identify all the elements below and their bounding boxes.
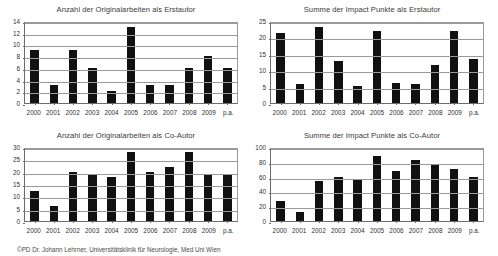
- x-tick-label: 2004: [348, 227, 367, 235]
- gridline: [25, 70, 237, 71]
- y-tick-label: 20: [259, 35, 266, 41]
- x-tick-label: 2009: [199, 109, 218, 117]
- y-tick-label: 10: [13, 42, 20, 48]
- y-tick-mark: [23, 223, 25, 224]
- x-tick-mark: [131, 221, 132, 223]
- x-tick-label: 2003: [328, 109, 347, 117]
- y-axis-labels: 020406080100: [252, 148, 268, 242]
- chart-title: Anzahl der Originalarbeiten als Co-Autor: [6, 130, 246, 142]
- bar: [334, 177, 342, 221]
- plot-area: 0510152025 20002001200220032004200520062…: [252, 22, 492, 122]
- x-tick-label: 2000: [24, 109, 43, 117]
- y-tick-mark: [23, 105, 25, 106]
- x-tick-label: 2005: [367, 227, 386, 235]
- y-tick-label: 100: [255, 145, 266, 151]
- x-tick-mark: [73, 221, 74, 223]
- y-axis-labels: 051015202530: [6, 148, 22, 242]
- x-tick-mark: [473, 103, 474, 105]
- bar: [50, 206, 58, 221]
- x-tick-mark: [92, 221, 93, 223]
- chart-title: Summe der Impact Punkte als Co-Autor: [252, 130, 492, 142]
- y-tick-mark: [269, 105, 271, 106]
- bar-cell: [348, 149, 367, 221]
- bar-cell: [329, 149, 348, 221]
- x-tick-mark: [377, 103, 378, 105]
- y-tick-label: 5: [262, 85, 266, 91]
- y-tick-mark: [23, 174, 25, 175]
- x-tick-mark: [415, 221, 416, 223]
- y-tick-label: 20: [13, 170, 20, 176]
- y-tick-mark: [23, 70, 25, 71]
- x-tick-mark: [227, 103, 228, 105]
- bar: [69, 172, 77, 221]
- x-tick-mark: [396, 103, 397, 105]
- x-axis-labels: 2000200120022003200420052006200720082009…: [24, 109, 238, 117]
- x-tick-label: 2003: [328, 227, 347, 235]
- y-tick-label: 0: [262, 101, 266, 107]
- x-tick-mark: [454, 103, 455, 105]
- plot-area: 02468101214 2000200120022003200420052006…: [6, 22, 246, 122]
- x-tick-label: 2002: [63, 227, 82, 235]
- x-tick-mark: [435, 221, 436, 223]
- bar: [431, 65, 439, 103]
- gridline: [271, 164, 483, 165]
- y-axis-labels: 0510152025: [252, 22, 268, 122]
- gridline: [25, 35, 237, 36]
- y-tick-label: 60: [259, 175, 266, 181]
- y-tick-label: 14: [13, 19, 20, 25]
- gridline: [271, 56, 483, 57]
- y-axis-labels: 02468101214: [6, 22, 22, 122]
- x-tick-label: 2006: [141, 227, 160, 235]
- x-tick-mark: [35, 103, 36, 105]
- x-tick-label: 2007: [160, 109, 179, 117]
- bar: [146, 172, 154, 221]
- x-tick-mark: [319, 221, 320, 223]
- x-tick-mark: [454, 221, 455, 223]
- bar-series: [271, 23, 483, 103]
- bar-cell: [367, 149, 386, 221]
- x-tick-label: 2006: [141, 109, 160, 117]
- x-tick-mark: [92, 103, 93, 105]
- x-tick-label: 2003: [82, 109, 101, 117]
- bar-cell: [406, 149, 425, 221]
- bar-cell: [329, 23, 348, 103]
- bar: [469, 177, 477, 221]
- x-tick-label: p.a.: [219, 227, 238, 235]
- y-tick-mark: [23, 93, 25, 94]
- y-tick-label: 15: [13, 182, 20, 188]
- bar: [276, 33, 284, 103]
- x-tick-mark: [377, 221, 378, 223]
- x-tick-label: 2006: [387, 227, 406, 235]
- y-tick-label: 5: [16, 207, 20, 213]
- x-tick-label: p.a.: [465, 109, 484, 117]
- x-tick-label: 2001: [43, 227, 62, 235]
- x-tick-mark: [473, 221, 474, 223]
- chart-panel-originalarbeiten-erstautor: Anzahl der Originalarbeiten als Erstauto…: [6, 4, 246, 128]
- bar: [469, 59, 477, 103]
- x-tick-label: 2005: [367, 109, 386, 117]
- x-tick-mark: [189, 221, 190, 223]
- bar: [315, 27, 323, 103]
- x-tick-mark: [54, 103, 55, 105]
- bar: [127, 27, 135, 103]
- y-tick-mark: [23, 58, 25, 59]
- x-tick-label: 2000: [270, 227, 289, 235]
- plot-frame: [270, 148, 484, 222]
- bar: [296, 84, 304, 103]
- y-tick-label: 2: [16, 89, 20, 95]
- gridline: [25, 161, 237, 162]
- gridline: [25, 211, 237, 212]
- x-tick-label: p.a.: [465, 227, 484, 235]
- x-tick-mark: [208, 103, 209, 105]
- y-tick-mark: [269, 193, 271, 194]
- x-tick-label: 2006: [387, 109, 406, 117]
- bar-cell: [387, 23, 406, 103]
- y-tick-mark: [269, 23, 271, 24]
- gridline: [271, 208, 483, 209]
- x-tick-mark: [73, 103, 74, 105]
- y-tick-label: 80: [259, 160, 266, 166]
- bar-cell: [271, 23, 290, 103]
- x-tick-mark: [112, 103, 113, 105]
- x-tick-label: 2004: [348, 109, 367, 117]
- y-tick-label: 12: [13, 31, 20, 37]
